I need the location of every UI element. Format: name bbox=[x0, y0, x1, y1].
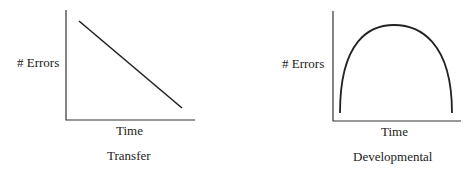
transfer-caption: Transfer bbox=[107, 149, 151, 162]
transfer-chart bbox=[66, 10, 195, 120]
developmental-chart bbox=[333, 11, 461, 121]
developmental-caption: Developmental bbox=[353, 150, 432, 163]
charts-canvas bbox=[0, 0, 476, 171]
developmental-ylabel: # Errors bbox=[282, 57, 324, 70]
developmental-curve bbox=[340, 25, 452, 113]
transfer-line bbox=[79, 21, 182, 108]
developmental-axes bbox=[333, 11, 461, 121]
transfer-ylabel: # Errors bbox=[17, 56, 59, 69]
transfer-xlabel: Time bbox=[116, 124, 143, 137]
developmental-xlabel: Time bbox=[381, 125, 408, 138]
